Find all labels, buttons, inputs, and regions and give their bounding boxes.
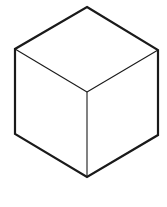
cube-diagram — [0, 0, 167, 207]
cube-inner-edge-left — [15, 49, 87, 92]
cube-inner-edge-right — [87, 50, 158, 92]
